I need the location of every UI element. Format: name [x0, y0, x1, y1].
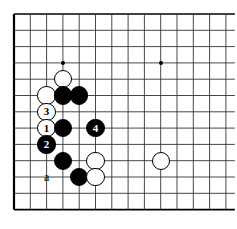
move-number-label: 2 [44, 138, 50, 149]
point-label-a: a [44, 170, 49, 185]
hoshi-top-right-icon [159, 61, 163, 65]
move-number-label: 3 [44, 106, 50, 117]
board-grid [0, 0, 237, 229]
move-number-label: 1 [44, 122, 50, 133]
black-move-4[interactable]: 4 [86, 119, 104, 137]
black-stone[interactable] [70, 86, 88, 104]
black-stone[interactable] [54, 152, 72, 170]
black-move-2[interactable]: 2 [37, 135, 55, 153]
hoshi-top-left-icon [61, 61, 65, 65]
go-diagram: 3142a [0, 0, 237, 229]
white-stone[interactable] [86, 168, 104, 186]
move-number-label: 4 [93, 122, 99, 133]
white-stone[interactable] [152, 152, 170, 170]
